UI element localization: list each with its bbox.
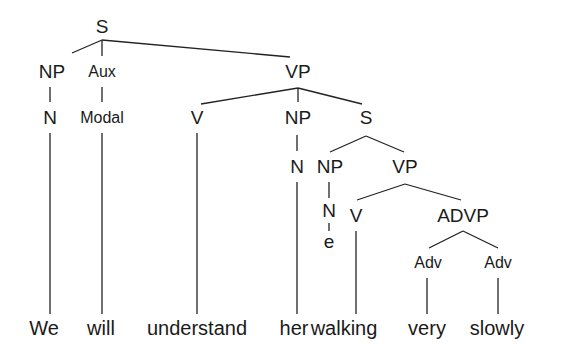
node-np-embedded: NP [317,156,343,177]
node-n-subject: N [43,107,57,128]
edge-vp-s [298,88,362,104]
edge-s2-vp [366,136,404,152]
edge-vp-v [201,88,298,104]
node-v-main: V [191,107,204,128]
node-n-embedded: N [322,200,336,221]
node-aux: Aux [88,63,116,80]
node-empty: e [324,231,335,252]
edge-vp2-advp [405,184,461,200]
word-very: very [408,317,446,339]
node-vp-main: VP [285,61,310,82]
node-adv-1: Adv [414,254,442,271]
word-her: her [280,317,309,339]
edge-advp-adv1 [429,231,463,248]
word-we: We [29,317,59,339]
word-walking: walking [310,317,378,339]
edge-s-np [72,40,102,53]
word-slowly: slowly [470,317,524,339]
terminal-words: We will understand her walking very slow… [29,317,524,339]
edge-advp-adv2 [463,231,498,248]
edge-s2-np [330,136,366,152]
edge-vp2-v [357,184,405,200]
node-s-embedded: S [360,107,373,128]
node-modal: Modal [80,109,124,126]
node-n-object: N [290,156,304,177]
node-np-object: NP [285,107,311,128]
word-will: will [86,317,115,339]
syntax-tree-diagram: S NP Aux VP N Modal V NP S N NP VP N e V… [0,0,573,360]
node-np-subject: NP [39,61,65,82]
tree-nodes: S NP Aux VP N Modal V NP S N NP VP N e V… [39,16,512,271]
tree-edges [50,40,498,314]
word-understand: understand [147,317,247,339]
node-advp: ADVP [437,205,489,226]
node-adv-2: Adv [484,254,512,271]
node-vp-embedded: VP [392,156,417,177]
edge-s-vp [102,40,290,57]
node-v-embedded: V [350,205,363,226]
node-s-root: S [96,16,109,37]
